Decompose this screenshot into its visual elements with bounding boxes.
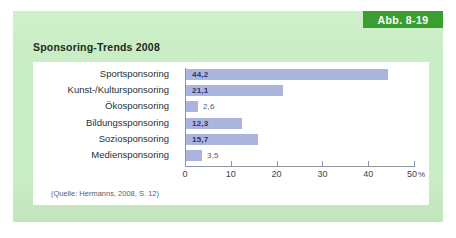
category-axis-line	[185, 166, 414, 167]
bar-chart: SportsponsoringKunst-/KultursponsoringÖk…	[33, 62, 429, 205]
bar	[186, 69, 388, 80]
figure-title: Sponsoring-Trends 2008	[33, 41, 160, 53]
bar-row: 44,2	[186, 69, 415, 80]
axis-tick	[368, 161, 369, 167]
bar-value-label: 21,1	[192, 85, 208, 96]
axis-tick	[185, 161, 186, 167]
category-label: Soziosponsoring	[37, 133, 169, 145]
bar-value-label: 2,6	[203, 101, 215, 112]
axis-tick	[322, 161, 323, 167]
chart-panel: SportsponsoringKunst-/KultursponsoringÖk…	[33, 62, 429, 205]
bar-value-label: 44,2	[192, 69, 208, 80]
category-label: Kunst-/Kultursponsoring	[37, 84, 169, 96]
axis-tick-label: 10	[226, 169, 236, 179]
source-note: (Quelle: Hermanns, 2008, S. 12)	[51, 189, 159, 198]
figure-number-badge: Abb. 8-19	[363, 11, 443, 28]
bar	[186, 101, 198, 112]
axis-tick-label: 40	[363, 169, 373, 179]
axis-tick-label: 20	[272, 169, 282, 179]
axis-unit-label: %	[418, 170, 425, 179]
category-label: Mediensponsoring	[37, 149, 169, 161]
bar-value-label: 3,5	[207, 150, 219, 161]
axis-tick-label: 0	[182, 169, 187, 179]
bar-value-label: 12,3	[192, 118, 208, 129]
axis-tick	[277, 161, 278, 167]
bar-row: 2,6	[186, 101, 415, 112]
axis-tick	[231, 161, 232, 167]
axis-tick	[414, 161, 415, 167]
bar-row: 15,7	[186, 134, 415, 145]
axis-tick-label: 30	[317, 169, 327, 179]
bar-row: 3,5	[186, 150, 415, 161]
figure-card: Abb. 8-19 Sponsoring-Trends 2008 Sportsp…	[13, 11, 443, 222]
category-label: Ökosponsoring	[37, 100, 169, 112]
axis-tick-label: 50%	[407, 169, 425, 179]
figure-number-label: Abb. 8-19	[378, 14, 429, 26]
category-axis-labels: SportsponsoringKunst-/KultursponsoringÖk…	[33, 62, 181, 205]
bar	[186, 150, 202, 161]
bar-row: 21,1	[186, 85, 415, 96]
bar-row: 12,3	[186, 118, 415, 129]
bar-value-label: 15,7	[192, 134, 208, 145]
category-label: Bildungssponsoring	[37, 117, 169, 129]
plot-region: 44,221,12,612,315,73,501020304050%	[185, 62, 417, 205]
category-label: Sportsponsoring	[37, 68, 169, 80]
